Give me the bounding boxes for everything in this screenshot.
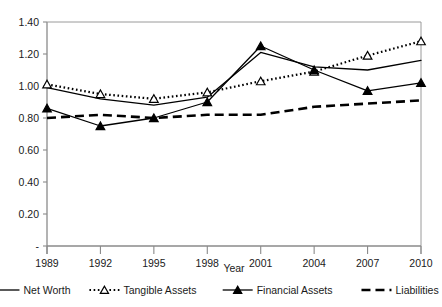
data-point-marker: [363, 52, 372, 60]
y-tick-label: 1.00: [19, 80, 40, 92]
y-tick-label: 0.20: [19, 208, 40, 220]
x-tick-label: 1989: [35, 257, 59, 269]
data-point-marker: [150, 95, 159, 103]
x-tick-label: 2004: [302, 257, 326, 269]
x-tick-label: 1995: [142, 257, 166, 269]
legend-item-financial-assets[interactable]: Financial Assets: [223, 284, 333, 296]
data-point-marker: [43, 104, 52, 112]
line-chart: -0.200.400.600.801.001.201.40 1989199219…: [0, 0, 442, 307]
x-axis-title: Year: [223, 262, 245, 274]
legend-label: Net Worth: [23, 284, 70, 296]
legend-marker-sample: [100, 286, 108, 293]
legend-item-liabilities[interactable]: Liabilities: [361, 284, 438, 296]
x-tick-label: 2001: [249, 257, 273, 269]
chart-series-group: [47, 41, 421, 126]
y-tick-label: 0.40: [19, 176, 40, 188]
y-tick-label: 0.60: [19, 144, 40, 156]
chart-canvas: -0.200.400.600.801.001.201.40 1989199219…: [0, 0, 442, 307]
legend-label: Financial Assets: [257, 284, 333, 296]
data-point-marker: [43, 80, 52, 88]
legend-item-net-worth[interactable]: Net Worth: [0, 284, 71, 296]
legend-label: Liabilities: [395, 284, 438, 296]
y-tick-label: 1.40: [19, 16, 40, 28]
y-axis-ticks: -0.200.400.600.801.001.201.40: [19, 16, 47, 252]
y-tick-label: -: [36, 240, 40, 252]
chart-legend: Net WorthTangible AssetsFinancial Assets…: [0, 284, 439, 296]
y-tick-label: 0.80: [19, 112, 40, 124]
y-tick-label: 1.20: [19, 48, 40, 60]
data-point-marker: [417, 79, 426, 87]
x-tick-label: 2007: [356, 257, 380, 269]
x-tick-label: 1998: [196, 257, 220, 269]
legend-item-tangible-assets[interactable]: Tangible Assets: [89, 284, 196, 296]
x-tick-label: 1992: [89, 257, 113, 269]
data-point-marker: [256, 42, 265, 50]
series-line-liabilities: [47, 100, 421, 118]
x-tick-label: 2010: [409, 257, 433, 269]
legend-label: Tangible Assets: [123, 284, 196, 296]
